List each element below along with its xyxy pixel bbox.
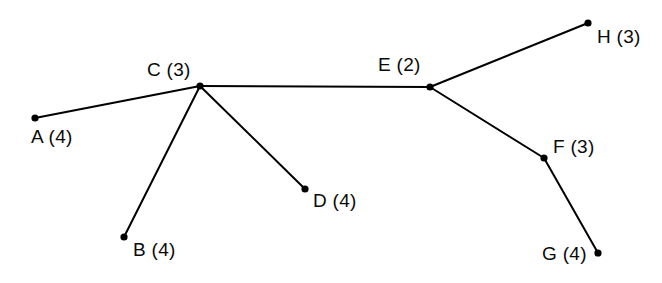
node-e-dot xyxy=(426,83,433,90)
edge-b-c xyxy=(124,86,200,237)
node-a-label: A (4) xyxy=(31,127,73,147)
node-g-label: G (4) xyxy=(542,244,587,264)
node-b-dot xyxy=(120,233,127,240)
node-h-dot xyxy=(584,19,591,26)
node-h-label: H (3) xyxy=(597,27,641,47)
edges-layer xyxy=(35,23,598,253)
node-a-dot xyxy=(31,114,38,121)
edge-e-f xyxy=(430,87,544,158)
edge-c-e xyxy=(200,86,430,87)
edge-f-g xyxy=(544,158,598,253)
node-b-label: B (4) xyxy=(133,240,176,260)
edge-a-c xyxy=(35,86,200,118)
node-d-label: D (4) xyxy=(313,191,357,211)
nodes-layer xyxy=(31,19,601,256)
node-f-label: F (3) xyxy=(553,137,595,157)
node-f-dot xyxy=(540,154,547,161)
edge-e-h xyxy=(430,23,588,87)
node-g-dot xyxy=(594,249,601,256)
node-d-dot xyxy=(301,185,308,192)
edge-c-d xyxy=(200,86,305,189)
node-c-dot xyxy=(196,82,203,89)
node-c-label: C (3) xyxy=(147,60,191,80)
graph-diagram: A (4)B (4)C (3)D (4)E (2)F (3)G (4)H (3) xyxy=(0,0,662,283)
node-e-label: E (2) xyxy=(378,55,421,75)
